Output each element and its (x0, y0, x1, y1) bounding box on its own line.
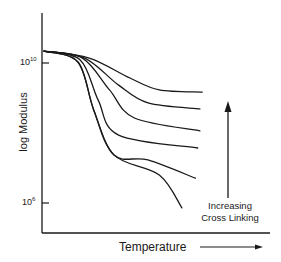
modulus-curve-2 (44, 51, 200, 109)
annotation-text: Increasing Cross Linking (190, 200, 270, 224)
modulus-curve-4 (44, 51, 198, 148)
modulus-curve-6 (44, 51, 182, 208)
arrow-right-icon (255, 245, 263, 250)
ytick-label-1e10: 1010 (20, 56, 37, 67)
annotation-line-2: Cross Linking (190, 212, 270, 224)
annotation-line-1: Increasing (190, 200, 270, 212)
ytick-label-1e6: 106 (22, 196, 35, 207)
ytick-base: 10 (22, 197, 32, 207)
arrow-up-icon (225, 101, 232, 112)
curve-group (44, 51, 202, 208)
x-axis-label: Temperature (119, 240, 186, 254)
y-axis-label: log Modulus (17, 85, 29, 159)
ytick-base: 10 (20, 57, 30, 67)
ytick-exp: 6 (32, 196, 35, 202)
modulus-curve-1 (44, 51, 202, 92)
ytick-exp: 10 (30, 56, 37, 62)
